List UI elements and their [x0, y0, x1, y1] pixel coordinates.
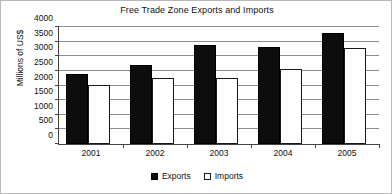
- bar-exports-2001: [66, 74, 88, 144]
- bar-group: [66, 27, 110, 144]
- y-axis-tick: [55, 128, 59, 129]
- x-axis-tick-label: 2005: [315, 148, 379, 158]
- y-axis-tick: [55, 114, 59, 115]
- bar-group: [130, 27, 174, 144]
- y-axis-tick-label: 3500: [23, 28, 53, 37]
- legend-label: Imports: [215, 171, 243, 181]
- chart-legend: ExportsImports: [1, 171, 392, 181]
- y-axis-tick: [55, 26, 59, 27]
- bar-group: [194, 27, 238, 144]
- bar-exports-2002: [130, 65, 152, 144]
- bar-group: [322, 27, 366, 144]
- bar-imports-2003: [216, 78, 238, 144]
- y-axis-tick-label: 1000: [23, 101, 53, 110]
- bar-imports-2005: [344, 48, 366, 144]
- y-axis-tick-label: 4000: [23, 14, 53, 23]
- bar-exports-2005: [322, 33, 344, 144]
- legend-item-exports[interactable]: Exports: [151, 171, 191, 181]
- legend-item-imports[interactable]: Imports: [204, 171, 243, 181]
- y-axis-tick: [55, 143, 59, 144]
- y-axis-tick: [55, 41, 59, 42]
- x-axis-tick-label: 2001: [59, 148, 123, 158]
- plot-area: 40003500300025002000150010005000 2001200…: [58, 27, 379, 145]
- y-axis-tick-label: 2000: [23, 72, 53, 81]
- chart-title: Free Trade Zone Exports and Imports: [1, 5, 392, 16]
- legend-label: Exports: [162, 171, 191, 181]
- y-axis-tick-label: 2500: [23, 57, 53, 66]
- bar-group: [258, 27, 302, 144]
- x-axis-tick-label: 2004: [251, 148, 315, 158]
- y-axis-tick: [55, 70, 59, 71]
- y-axis-tick-label: 0: [23, 131, 53, 140]
- y-axis-tick: [55, 85, 59, 86]
- bar-imports-2002: [152, 78, 174, 144]
- legend-swatch-exports-icon: [151, 173, 158, 180]
- bar-exports-2004: [258, 47, 280, 144]
- y-axis-tick-label: 500: [23, 116, 53, 125]
- legend-swatch-imports-icon: [204, 173, 211, 180]
- y-axis-tick: [55, 99, 59, 100]
- y-axis-tick-label: 1500: [23, 87, 53, 96]
- bar-imports-2004: [280, 69, 302, 144]
- chart-figure: Free Trade Zone Exports and Imports Mill…: [0, 0, 392, 194]
- x-axis-tick: [379, 144, 380, 148]
- x-axis-tick-label: 2002: [123, 148, 187, 158]
- bar-exports-2003: [194, 45, 216, 144]
- bar-imports-2001: [88, 85, 110, 144]
- x-axis-tick-label: 2003: [187, 148, 251, 158]
- y-axis-tick: [55, 55, 59, 56]
- y-axis-tick-label: 3000: [23, 43, 53, 52]
